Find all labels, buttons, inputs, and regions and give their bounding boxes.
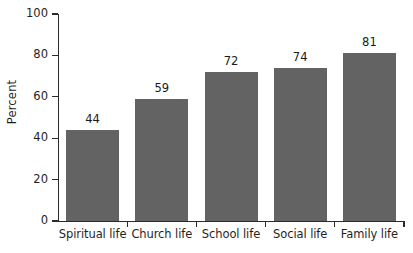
bar-social-life <box>274 68 327 221</box>
y-tick-label-20: 20 <box>16 174 48 186</box>
x-axis-category-label: Church life <box>127 227 196 241</box>
y-tick-label-60: 60 <box>16 91 48 103</box>
y-axis-tick-labels: 0 20 40 60 80 100 <box>12 0 48 253</box>
bar-family-life <box>343 53 396 221</box>
bar-value-label: 74 <box>274 52 327 64</box>
bar-value-label: 72 <box>205 56 258 68</box>
bar-school-life <box>205 72 258 221</box>
y-tick-label-80: 80 <box>16 49 48 61</box>
x-axis-line <box>58 221 405 222</box>
x-axis-tick <box>403 222 404 227</box>
x-axis-category-label: Social life <box>266 227 335 241</box>
y-tick-label-100: 100 <box>16 8 48 20</box>
y-tick-label-0: 0 <box>16 215 48 227</box>
x-axis-category-label: Spiritual life <box>58 227 127 241</box>
x-axis-category-label: School life <box>196 227 265 241</box>
bar-value-label: 44 <box>66 114 119 126</box>
bar-value-label: 59 <box>135 83 188 95</box>
bar-spiritual-life <box>66 130 119 221</box>
x-axis-category-label: Family life <box>335 227 404 241</box>
bar-church-life <box>135 99 188 221</box>
bar-value-label: 81 <box>343 37 396 49</box>
bar-chart: Percent 0 20 40 60 80 100 44Spiritual li… <box>0 0 413 253</box>
y-tick-label-40: 40 <box>16 132 48 144</box>
